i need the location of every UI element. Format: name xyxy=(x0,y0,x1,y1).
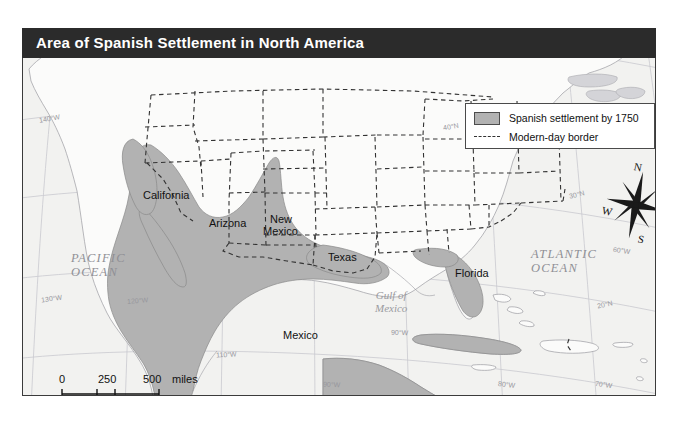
scale-bar-ruler xyxy=(59,388,169,396)
graticule-label-90w: 90°W xyxy=(391,329,408,337)
graticule-label-110w: 110°W xyxy=(216,350,237,358)
map-title: Area of Spanish Settlement in North Amer… xyxy=(36,34,364,51)
legend-item-border: Modern-day border xyxy=(474,129,598,145)
scale-miles-tick-0: 0 xyxy=(59,373,65,385)
place-label-arizona: Arizona xyxy=(209,217,246,229)
map-legend: Spanish settlement by 1750 Modern-day bo… xyxy=(465,103,655,149)
compass-rose: N E S W xyxy=(600,163,656,245)
legend-swatch-settlement xyxy=(474,112,500,125)
place-label-new-mexico-line1: New xyxy=(270,213,292,225)
graticule-label-90w-lower: 90°W xyxy=(323,381,341,389)
map-canvas xyxy=(23,29,656,396)
compass-rose-icon xyxy=(600,163,656,245)
ocean-label-pacific-line1: PACIFIC xyxy=(71,251,126,265)
map-title-banner: Area of Spanish Settlement in North Amer… xyxy=(22,28,656,58)
legend-item-settlement: Spanish settlement by 1750 xyxy=(474,110,639,126)
legend-label-border: Modern-day border xyxy=(509,131,598,143)
sea-label-gulf-line1: Gulf of xyxy=(375,289,407,302)
legend-dashed-line-icon xyxy=(474,136,500,138)
ocean-label-atlantic-line1: ATLANTIC xyxy=(531,247,597,261)
scale-miles-tick-250: 250 xyxy=(98,373,116,385)
place-label-new-mexico-line2: Mexico xyxy=(263,225,298,237)
map-scale-bar: 0 250 500 miles 0 250 500 kilometers xyxy=(59,373,229,396)
ocean-label-pacific: PACIFIC OCEAN xyxy=(71,251,126,279)
ocean-label-atlantic-line2: OCEAN xyxy=(531,261,597,275)
map-figure: 140°W 130°W 120°W 110°W 90°W 90°W 80°W 7… xyxy=(0,0,677,422)
place-label-california: California xyxy=(143,189,189,201)
scale-row-miles: 0 250 500 miles xyxy=(59,373,229,387)
place-label-mexico: Mexico xyxy=(283,329,318,341)
place-label-florida: Florida xyxy=(455,267,489,279)
map-frame: 140°W 130°W 120°W 110°W 90°W 90°W 80°W 7… xyxy=(22,28,656,396)
scale-miles-unit: miles xyxy=(172,373,198,385)
place-label-texas: Texas xyxy=(328,251,357,263)
ocean-label-atlantic: ATLANTIC OCEAN xyxy=(531,247,597,275)
ocean-label-pacific-line2: OCEAN xyxy=(71,265,126,279)
legend-label-settlement: Spanish settlement by 1750 xyxy=(509,112,639,124)
sea-label-gulf-line2: Mexico xyxy=(375,302,407,315)
scale-miles-tick-500: 500 xyxy=(143,373,161,385)
sea-label-gulf-of-mexico: Gulf of Mexico xyxy=(375,289,407,315)
